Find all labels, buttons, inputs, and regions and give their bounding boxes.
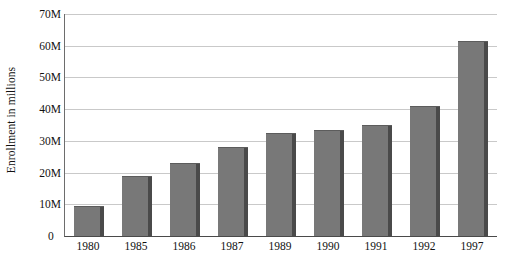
x-axis-tick-labels: 198019851986198719891990199119921997: [64, 240, 496, 262]
y-tick-label: 20M: [39, 167, 61, 179]
bar-slot: [449, 14, 497, 236]
x-tick-label: 1986: [160, 240, 208, 252]
x-tick-label: 1991: [352, 240, 400, 252]
y-tick-label: 70M: [39, 8, 61, 20]
bar-slot: [65, 14, 113, 236]
bars-layer: [65, 14, 497, 236]
bar-slot: [257, 14, 305, 236]
y-tick-label: 10M: [39, 198, 61, 210]
y-axis-title: Enrollment in millions: [0, 0, 22, 240]
bar-slot: [353, 14, 401, 236]
bar-slot: [161, 14, 209, 236]
y-axis-title-text: Enrollment in millions: [5, 67, 17, 173]
bar: [410, 106, 440, 236]
y-axis-tick-labels: 10M20M30M40M50M60M70M: [22, 0, 64, 240]
bar-slot: [113, 14, 161, 236]
bar: [266, 133, 296, 236]
bar: [170, 163, 200, 236]
bar: [122, 176, 152, 236]
y-tick-label: 30M: [39, 135, 61, 147]
x-tick-label: 1985: [112, 240, 160, 252]
x-tick-label: 1990: [304, 240, 352, 252]
y-tick-label: 50M: [39, 71, 61, 83]
bar-chart: Enrollment in millions 10M20M30M40M50M60…: [0, 0, 510, 264]
bar-slot: [401, 14, 449, 236]
bar: [218, 147, 248, 236]
y-tick-label: 40M: [39, 103, 61, 115]
x-tick-label: 1989: [256, 240, 304, 252]
bar: [74, 206, 104, 236]
x-tick-label: 1987: [208, 240, 256, 252]
x-tick-label: 1980: [64, 240, 112, 252]
y-axis-zero-label: 0: [48, 230, 54, 242]
x-tick-label: 1997: [448, 240, 496, 252]
plot-area: [64, 14, 497, 237]
bar: [458, 41, 488, 236]
bar: [362, 125, 392, 236]
bar: [314, 130, 344, 236]
x-tick-label: 1992: [400, 240, 448, 252]
bar-slot: [305, 14, 353, 236]
bar-slot: [209, 14, 257, 236]
y-tick-label: 60M: [39, 40, 61, 52]
